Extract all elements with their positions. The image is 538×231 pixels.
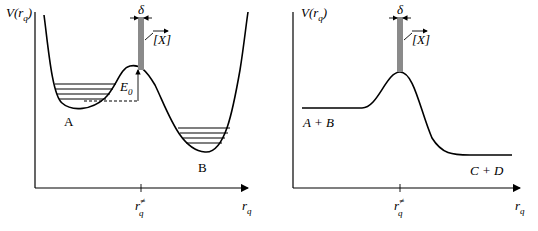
reactants-label: A + B: [302, 115, 334, 130]
left-delta-label: δ: [138, 2, 145, 17]
right-delta-label: δ: [397, 2, 404, 17]
well-a-label: A: [64, 114, 74, 129]
potential-energy-diagrams: V(rq) rq r≠q E0 δ [X]: [0, 0, 538, 231]
left-x-label: [X]: [153, 32, 171, 47]
left-double-well-curve: [44, 12, 248, 152]
e0-label: E0: [119, 79, 133, 97]
right-y-axis-label: V(rq): [301, 5, 327, 23]
right-tick-label: r≠q: [394, 196, 404, 218]
left-panel: V(rq) rq r≠q E0 δ [X]: [6, 2, 252, 218]
well-b-label: B: [198, 160, 207, 175]
left-x-axis-label: rq: [242, 198, 252, 216]
products-label: C + D: [470, 163, 504, 178]
right-x-axis-label: rq: [515, 198, 525, 216]
left-y-axis-label: V(rq): [6, 5, 32, 23]
left-transition-bar: [138, 17, 144, 70]
right-x-label: [X]: [412, 32, 430, 47]
left-tick-label: r≠q: [135, 196, 145, 218]
right-transition-bar: [397, 17, 403, 72]
right-barrier-curve: [302, 72, 512, 155]
left-x-leader: [145, 33, 153, 40]
right-x-leader: [404, 33, 412, 40]
right-panel: V(rq) rq r≠q δ [X] A + B C + D: [293, 2, 525, 218]
